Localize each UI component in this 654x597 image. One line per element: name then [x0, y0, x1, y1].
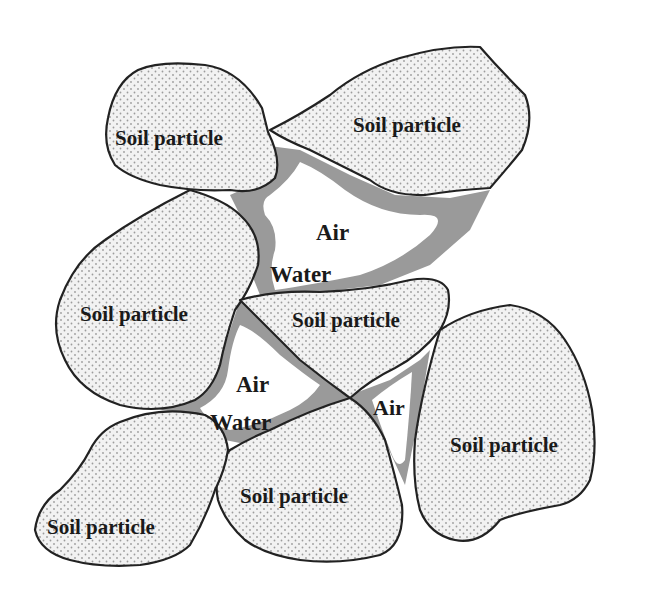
label-water-middle: Water — [210, 410, 271, 435]
label-soil-top-right: Soil particle — [353, 113, 461, 137]
label-soil-mid-left: Soil particle — [80, 302, 188, 326]
label-air-upper: Air — [316, 220, 349, 245]
label-soil-top-left: Soil particle — [115, 126, 223, 150]
label-soil-bottom-center: Soil particle — [240, 484, 348, 508]
soil-diagram: Soil particle Soil particle Soil particl… — [0, 0, 654, 597]
label-air-small: Air — [373, 395, 405, 420]
label-soil-bottom-left: Soil particle — [47, 515, 155, 539]
label-soil-center: Soil particle — [292, 308, 400, 332]
label-air-middle: Air — [236, 372, 269, 397]
label-water-upper: Water — [270, 262, 331, 287]
label-soil-right: Soil particle — [450, 433, 558, 457]
soil-particle-right — [414, 305, 594, 541]
soil-particle-bottom-left — [35, 411, 228, 566]
